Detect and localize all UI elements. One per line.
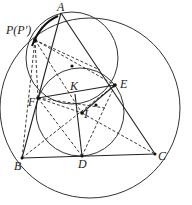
label-p: P(P′) — [5, 23, 31, 37]
point-f — [36, 96, 40, 100]
point-p — [33, 38, 37, 42]
dash-fd — [38, 98, 82, 156]
side-bc — [22, 154, 155, 158]
dash-be — [22, 85, 115, 158]
label-a: A — [56, 0, 65, 14]
label-e: E — [119, 77, 128, 91]
label-k: K — [69, 79, 79, 93]
label-f: F — [27, 95, 36, 109]
label-d: D — [77, 157, 87, 171]
point-mid-upper — [70, 64, 73, 67]
circumcircle — [0, 18, 180, 198]
geometry-diagram: A P(P′) E F K I B D C — [0, 0, 192, 205]
label-c: C — [158, 149, 167, 163]
label-b: B — [14, 159, 22, 173]
label-i: I — [83, 107, 89, 121]
dash-f-mid — [38, 98, 105, 108]
point-e — [113, 83, 117, 87]
point-mid-lower — [94, 103, 97, 106]
point-c — [154, 153, 157, 156]
dash-pf — [35, 40, 38, 98]
